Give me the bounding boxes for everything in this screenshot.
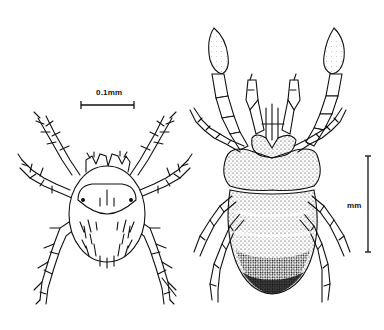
scale-bar-right: [365, 156, 371, 252]
scale-label-right: mm: [347, 201, 362, 210]
illustration-svg: [0, 0, 384, 330]
large-mite-drawing: [190, 28, 350, 302]
small-mite-drawing: [18, 112, 192, 304]
figure-canvas: 0.1mm mm: [0, 0, 384, 330]
scale-label-left: 0.1mm: [96, 88, 122, 97]
scale-bar-left: [81, 101, 134, 109]
